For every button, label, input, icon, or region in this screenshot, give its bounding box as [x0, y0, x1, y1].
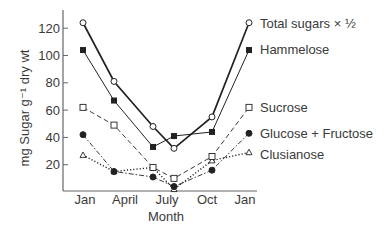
sugar-seasonal-line-chart: 20406080100120JanAprilJulyOctJan Total s… [0, 0, 386, 236]
open-square-marker [171, 175, 177, 181]
filled-circle-marker [80, 132, 86, 138]
legend-label: Clusianose [260, 147, 324, 162]
open-square-marker [111, 122, 117, 128]
x-tick-label: Oct [197, 192, 218, 207]
y-axis-label: mg Sugar g⁻¹ dry wt [17, 49, 32, 166]
x-tick-label: Jan [235, 192, 256, 207]
series-total-sugars [80, 20, 252, 152]
open-triangle-marker [80, 152, 86, 158]
filled-circle-marker [171, 184, 177, 190]
y-tick-label: 100 [38, 48, 60, 63]
legend-label: Sucrose [260, 100, 308, 115]
filled-square-marker [150, 144, 156, 150]
filled-square-marker [171, 133, 177, 139]
y-tick-label: 20 [46, 157, 60, 172]
legend-label: Total sugars × ½ [260, 16, 356, 31]
series-line [83, 23, 249, 149]
open-circle-marker [209, 114, 215, 120]
y-tick-label: 80 [46, 75, 60, 90]
open-square-marker [150, 164, 156, 170]
open-circle-marker [150, 123, 156, 129]
filled-circle-marker [246, 130, 252, 136]
open-triangle-marker [246, 149, 252, 155]
series-sucrose [80, 104, 252, 181]
open-square-marker [246, 104, 252, 110]
filled-circle-marker [150, 174, 156, 180]
series-group [80, 20, 252, 192]
filled-square-marker [246, 47, 252, 53]
axes: 20406080100120JanAprilJulyOctJan [38, 10, 257, 207]
x-tick-label: April [112, 192, 138, 207]
inline-legend: Total sugars × ½HammeloseSucroseGlucose … [260, 16, 373, 162]
open-circle-marker [80, 20, 86, 26]
legend-label: Hammelose [260, 42, 329, 57]
series-hammelose [80, 47, 252, 150]
filled-circle-marker [209, 167, 215, 173]
series-line [83, 107, 249, 178]
open-circle-marker [246, 20, 252, 26]
open-square-marker [80, 104, 86, 110]
filled-square-marker [111, 98, 117, 104]
filled-circle-marker [111, 169, 117, 175]
series-line [83, 50, 249, 147]
open-circle-marker [171, 145, 177, 151]
open-circle-marker [111, 78, 117, 84]
y-tick-label: 120 [38, 21, 60, 36]
x-tick-label: July [155, 192, 179, 207]
x-tick-label: Jan [75, 192, 96, 207]
filled-square-marker [80, 47, 86, 53]
legend-label: Glucose + Fructose [260, 126, 373, 141]
x-axis-label: Month [148, 209, 184, 224]
y-tick-label: 60 [46, 103, 60, 118]
series-line [83, 133, 249, 186]
y-tick-label: 40 [46, 130, 60, 145]
filled-square-marker [209, 129, 215, 135]
open-square-marker [209, 154, 215, 160]
